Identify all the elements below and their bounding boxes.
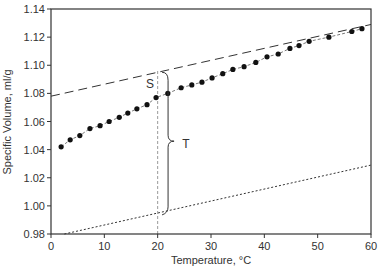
data-point (209, 75, 214, 80)
data-point (77, 133, 82, 138)
data-point (230, 67, 235, 72)
data-point (307, 39, 312, 44)
data-point (241, 64, 246, 69)
annotation-s: S (146, 77, 154, 91)
x-axis-ticks: 0102030405060 (48, 234, 377, 252)
data-point (134, 106, 139, 111)
y-axis-ticks: 0.981.001.021.041.061.081.101.121.14 (24, 3, 51, 240)
plot-frame (51, 9, 371, 234)
data-point (153, 95, 158, 100)
data-point (117, 115, 122, 120)
data-point (359, 26, 364, 31)
y-tick-label: 1.10 (24, 59, 45, 71)
x-tick-label: 40 (258, 240, 270, 252)
y-axis-label: Specific Volume, ml/g (1, 69, 13, 174)
data-point (179, 85, 184, 90)
y-tick-label: 1.04 (24, 144, 45, 156)
data-point (276, 51, 281, 56)
x-tick-label: 30 (205, 240, 217, 252)
reference-lines (51, 24, 371, 234)
y-tick-label: 1.14 (24, 3, 45, 15)
data-connector-line (61, 29, 362, 147)
specific-volume-chart: S T 0102030405060 0.981.001.021.041.061.… (0, 0, 379, 272)
data-point (189, 82, 194, 87)
x-axis-label: Temperature, °C (171, 254, 251, 266)
y-tick-label: 1.08 (24, 87, 45, 99)
lower-dotted-line (64, 165, 371, 234)
data-point (68, 137, 73, 142)
data-point (253, 60, 258, 65)
data-point (107, 119, 112, 124)
upper-dashed-line (51, 24, 371, 96)
data-point (87, 126, 92, 131)
x-tick-label: 10 (98, 240, 110, 252)
x-tick-label: 60 (365, 240, 377, 252)
data-point (349, 29, 354, 34)
data-point (97, 123, 102, 128)
data-point (326, 35, 331, 40)
x-tick-label: 50 (312, 240, 324, 252)
plot-svg: S T 0102030405060 0.981.001.021.041.061.… (0, 0, 379, 272)
x-tick-label: 0 (48, 240, 54, 252)
y-tick-label: 1.02 (24, 172, 45, 184)
data-point (144, 102, 149, 107)
annotations: S T (146, 72, 190, 215)
y-tick-label: 1.12 (24, 31, 45, 43)
y-tick-label: 1.06 (24, 116, 45, 128)
annotation-t: T (182, 137, 190, 151)
data-point (125, 110, 130, 115)
data-point (199, 80, 204, 85)
y-tick-label: 1.00 (24, 200, 45, 212)
data-series (59, 26, 365, 149)
x-tick-label: 20 (152, 240, 164, 252)
data-point (59, 144, 64, 149)
axes (51, 9, 371, 234)
data-point (220, 71, 225, 76)
data-point (264, 54, 269, 59)
data-point (296, 43, 301, 48)
y-tick-label: 0.98 (24, 228, 45, 240)
brace-t (162, 98, 174, 215)
data-point (287, 46, 292, 51)
